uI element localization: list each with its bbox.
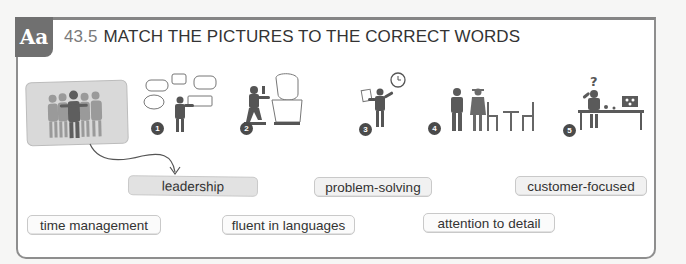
picture-number-4: 4 — [428, 122, 441, 135]
picture-number-1: 1 — [151, 122, 164, 135]
confused-person-desk-icon[interactable]: ? — [578, 74, 648, 136]
word-chip-customer-focused[interactable]: customer-focused — [515, 176, 647, 196]
picture-number-3: 3 — [359, 123, 372, 136]
exercise-number: 43.5 — [64, 27, 98, 46]
team-group-icon — [26, 81, 128, 146]
exercise-instructions: MATCH THE PICTURES TO THE CORRECT WORDS — [104, 27, 521, 46]
example-arrow-icon — [80, 140, 190, 180]
vocabulary-badge: Aa — [15, 17, 53, 57]
word-chip-problem-solving[interactable]: problem-solving — [314, 177, 432, 197]
svg-text:?: ? — [590, 74, 598, 89]
word-chip-fluent-in-languages[interactable]: fluent in languages — [222, 215, 355, 235]
exercise-title: 43.5MATCH THE PICTURES TO THE CORRECT WO… — [64, 27, 520, 47]
word-chip-leadership[interactable]: leadership — [128, 175, 258, 197]
word-chip-time-management[interactable]: time management — [27, 215, 161, 235]
picture-number-5: 5 — [563, 124, 576, 137]
picture-number-2: 2 — [240, 122, 253, 135]
word-chip-attention-to-detail[interactable]: attention to detail — [423, 213, 555, 233]
example-picture-card[interactable] — [25, 80, 129, 147]
waiter-customer-table-icon[interactable] — [443, 84, 543, 136]
